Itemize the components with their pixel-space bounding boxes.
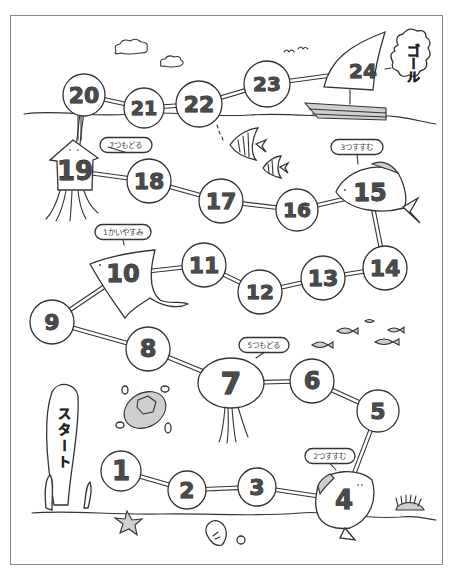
square-number: 10 xyxy=(106,260,139,288)
seagulls-icon xyxy=(284,47,308,52)
event-bubble: 3つすすむ xyxy=(331,140,383,165)
turtle-icon xyxy=(116,384,173,435)
square-number: 16 xyxy=(283,198,311,222)
square-number: 22 xyxy=(184,92,215,117)
sea-floor-line xyxy=(32,512,436,520)
svg-text:ル: ル xyxy=(407,69,420,84)
cloud-icon xyxy=(115,39,147,54)
event-bubble: 7つもどる xyxy=(100,138,152,153)
sea-anemone-icon xyxy=(396,495,424,510)
fish-school-icon xyxy=(312,320,404,349)
square-number: 7 xyxy=(221,366,242,401)
event-bubble: 5つもどる xyxy=(239,338,289,359)
square-number: 15 xyxy=(353,179,386,207)
square-number: 20 xyxy=(69,83,100,108)
square-number: 13 xyxy=(308,266,339,291)
bubble-text: 2つすすむ xyxy=(314,452,347,461)
square-number: 9 xyxy=(44,310,59,335)
shell-icon xyxy=(206,521,245,546)
square-number: 1 xyxy=(112,456,130,486)
square-number: 19 xyxy=(57,156,93,186)
angelfish-icon xyxy=(263,156,288,178)
square-number: 4 xyxy=(335,485,353,515)
svg-text:タ: タ xyxy=(58,422,71,437)
goal-label: ゴール xyxy=(406,43,421,84)
sugoroku-board: ゴール スタート 1234567891 xyxy=(0,0,454,576)
angelfish-icon xyxy=(217,125,266,160)
square-number: 23 xyxy=(253,72,281,96)
square-number: 5 xyxy=(370,399,385,424)
svg-text:ト: ト xyxy=(58,454,71,469)
starfish-icon xyxy=(115,511,142,535)
square-number: 3 xyxy=(249,475,264,500)
cloud-icon xyxy=(160,56,183,67)
square-number: 17 xyxy=(206,189,237,214)
square-number: 12 xyxy=(246,280,274,304)
square-number: 8 xyxy=(140,335,157,363)
square-numbers: 123456789101112131415161718192021222324 xyxy=(44,59,400,515)
svg-text:ー: ー xyxy=(57,439,72,452)
square-number: 24 xyxy=(349,59,377,83)
svg-text:ス: ス xyxy=(58,406,71,421)
square-number: 11 xyxy=(189,253,220,278)
square-number: 21 xyxy=(131,97,157,119)
event-bubble: 2つすすむ xyxy=(305,449,355,471)
bubble-text: 7つもどる xyxy=(110,141,143,150)
square-number: 6 xyxy=(304,367,321,395)
square-number: 18 xyxy=(134,169,165,194)
bubble-text: 5つもどる xyxy=(248,341,281,350)
event-bubble: 1かいやすみ xyxy=(95,225,151,246)
svg-text:ゴ: ゴ xyxy=(407,43,420,58)
square-number: 2 xyxy=(179,478,194,503)
bubble-text: 1かいやすみ xyxy=(103,228,144,237)
square-number: 14 xyxy=(370,256,401,281)
bubble-text: 3つすすむ xyxy=(341,143,374,152)
